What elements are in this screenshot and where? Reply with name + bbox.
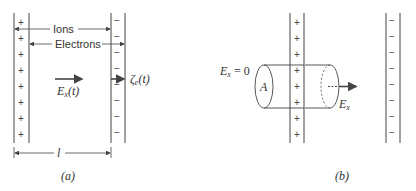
- length-label: l: [57, 146, 61, 160]
- field-label-a: Ex(t): [56, 84, 79, 99]
- right-plate-b: − − − − − − − −: [386, 13, 400, 143]
- area-label: A: [259, 80, 268, 94]
- minus-sign: −: [389, 111, 395, 122]
- left-plate-a: + + + + + + + +: [14, 13, 29, 143]
- minus-sign: −: [389, 127, 395, 138]
- plus-sign: +: [294, 81, 300, 92]
- plus-sign: +: [18, 65, 24, 76]
- field-arrow-a: Ex(t): [55, 79, 82, 99]
- caption-a: (a): [61, 169, 75, 183]
- minus-sign: −: [114, 31, 120, 42]
- electrons-span-arrow: Electrons: [30, 38, 124, 50]
- length-dimension: l: [14, 146, 111, 160]
- plus-sign: +: [18, 33, 24, 44]
- minus-sign: −: [114, 127, 120, 138]
- minus-sign: −: [389, 31, 395, 42]
- field-arrow-b: Ex: [328, 87, 356, 113]
- minus-sign: −: [389, 95, 395, 106]
- plus-sign: +: [18, 49, 24, 60]
- plus-sign: +: [294, 129, 300, 140]
- plasma-slab-diagram: + + + + + + + + − − − − − − − − Ions: [0, 0, 416, 191]
- displacement-label: ζe(t): [130, 72, 150, 87]
- minus-sign: −: [389, 63, 395, 74]
- plus-sign: +: [18, 17, 24, 28]
- ions-label: Ions: [53, 23, 74, 35]
- minus-sign: −: [389, 15, 395, 26]
- plus-sign: +: [294, 17, 300, 28]
- plus-sign: +: [294, 49, 300, 60]
- minus-sign: −: [389, 79, 395, 90]
- plus-sign: +: [294, 97, 300, 108]
- field-zero-label: Ex = 0: [219, 64, 250, 79]
- left-plate-b: + + + + + + + +: [290, 13, 305, 143]
- field-label-b: Ex: [338, 97, 350, 112]
- plus-sign: +: [18, 81, 24, 92]
- minus-sign: −: [114, 63, 120, 74]
- caption-b: (b): [335, 169, 349, 183]
- minus-sign: −: [389, 47, 395, 58]
- plus-sign: +: [294, 113, 300, 124]
- figure-b: A + + + + + + + + − − − − − −: [219, 13, 400, 183]
- right-plate-a: − − − − − − − −: [111, 13, 125, 143]
- plus-sign: +: [294, 65, 300, 76]
- plus-sign: +: [294, 33, 300, 44]
- plus-sign: +: [18, 97, 24, 108]
- minus-sign: −: [114, 95, 120, 106]
- minus-sign: −: [114, 111, 120, 122]
- minus-sign: −: [114, 47, 120, 58]
- minus-sign: −: [114, 15, 120, 26]
- minus-sign: −: [114, 79, 120, 90]
- figure-a: + + + + + + + + − − − − − − − − Ions: [14, 13, 150, 183]
- plus-sign: +: [18, 113, 24, 124]
- electrons-label: Electrons: [55, 38, 101, 50]
- plus-sign: +: [18, 129, 24, 140]
